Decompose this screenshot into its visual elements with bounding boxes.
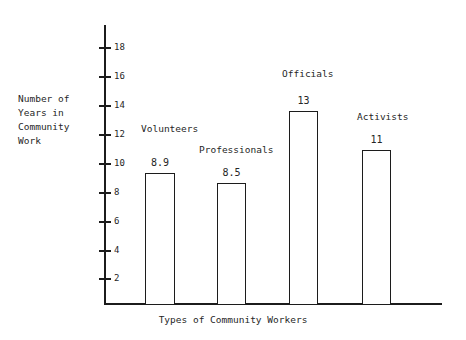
bar-label-volunteers: Volunteers	[141, 124, 198, 134]
y-tick-label-6: 6	[114, 217, 119, 226]
y-tick-label-12: 12	[114, 130, 125, 139]
bar-label-professionals: Professionals	[199, 145, 273, 155]
y-tick-label-10: 10	[114, 159, 125, 168]
y-tick-label-2: 2	[114, 274, 119, 283]
y-tick-label-18: 18	[114, 43, 125, 52]
y-tick-6	[99, 221, 111, 223]
bar-label-officials: Officials	[282, 69, 333, 79]
bar-chart: Number of Years in Community Work 18 16 …	[0, 0, 466, 340]
y-tick-18	[99, 47, 111, 49]
y-tick-8	[99, 192, 111, 194]
y-tick-label-14: 14	[114, 101, 125, 110]
y-tick-10	[99, 163, 111, 165]
bar-value-activists: 11	[362, 135, 391, 145]
bar-activists	[362, 150, 391, 304]
y-tick-label-16: 16	[114, 72, 125, 81]
y-tick-2	[99, 278, 111, 280]
bar-value-volunteers: 8.9	[145, 158, 175, 168]
x-axis-title: Types of Community Workers	[0, 314, 466, 326]
bar-value-officials: 13	[289, 96, 318, 106]
bar-value-professionals: 8.5	[217, 168, 246, 178]
y-tick-16	[99, 76, 111, 78]
y-tick-4	[99, 250, 111, 252]
y-axis-line	[104, 25, 106, 305]
y-tick-14	[99, 105, 111, 107]
y-tick-label-8: 8	[114, 188, 119, 197]
bar-professionals	[217, 183, 246, 304]
bar-volunteers	[145, 173, 175, 304]
y-axis-title: Number of Years in Community Work	[18, 92, 69, 148]
y-tick-12	[99, 134, 111, 136]
y-tick-label-4: 4	[114, 246, 119, 255]
bar-officials	[289, 111, 318, 304]
bar-label-activists: Activists	[357, 112, 408, 122]
